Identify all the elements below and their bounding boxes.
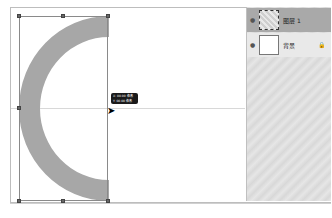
layer-name: 背景	[283, 41, 295, 50]
layers-panel: ● 图层 1 ● 背景 🔒	[246, 7, 331, 201]
lock-icon[interactable]: 🔒	[318, 41, 325, 48]
handle-top-right[interactable]	[106, 14, 110, 18]
tooltip-y: Y: 00.00 像素	[113, 99, 136, 104]
move-cursor-icon: ➤	[107, 106, 115, 116]
handle-top-middle[interactable]	[61, 14, 65, 18]
layer-thumbnail	[259, 35, 279, 55]
layer-row-background[interactable]: ● 背景 🔒	[247, 33, 331, 57]
transform-bounding-box[interactable]	[19, 16, 108, 201]
eye-icon[interactable]: ●	[250, 41, 255, 48]
handle-bottom-middle[interactable]	[61, 199, 65, 203]
handle-bottom-right[interactable]	[106, 199, 110, 203]
layer-thumbnail	[259, 10, 279, 30]
layer-name: 图层 1	[283, 16, 301, 25]
handle-middle-left[interactable]	[17, 106, 21, 110]
handle-top-left[interactable]	[17, 14, 21, 18]
coordinate-tooltip: X: 00.00 像素 Y: 00.00 像素	[111, 93, 138, 104]
layer-row-layer1[interactable]: ● 图层 1	[247, 8, 331, 32]
handle-bottom-left[interactable]	[17, 199, 21, 203]
eye-icon[interactable]: ●	[250, 16, 255, 23]
